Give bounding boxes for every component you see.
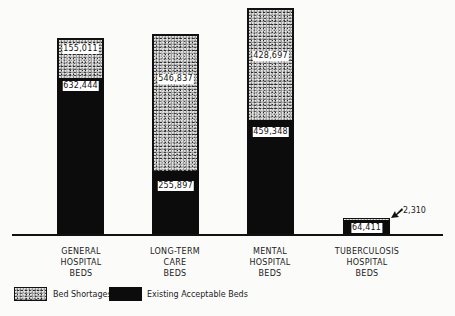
category-line: GENERAL (36, 246, 126, 257)
category-label-general: GENERAL HOSPITAL BEDS (36, 246, 126, 279)
category-line: MENTAL (225, 246, 315, 257)
bar-segment-existing: 459,348 (247, 120, 294, 235)
category-line: BEDS (322, 268, 412, 279)
value-label-shortage: 428,697 (252, 51, 288, 61)
category-line: HOSPITAL (225, 257, 315, 268)
bar-segment-shortage: 155,011 (57, 38, 104, 78)
value-label-existing: 459,348 (252, 127, 288, 137)
value-label-existing: 255,897 (157, 181, 193, 191)
category-line: HOSPITAL (322, 257, 412, 268)
legend-swatch-existing (109, 287, 142, 301)
value-label-shortage: 155,011 (62, 44, 98, 54)
value-label-existing: 64,411 (351, 223, 382, 233)
value-label-existing: 632,444 (62, 81, 98, 91)
category-line: BEDS (130, 268, 220, 279)
bar-segment-shortage: 546,837 (152, 34, 199, 171)
category-line: HOSPITAL (36, 257, 126, 268)
category-label-long-term: LONG-TERM CARE BEDS (130, 246, 220, 279)
category-line: LONG-TERM (130, 246, 220, 257)
value-label-tb-shortage: 2,310 (403, 206, 426, 215)
bar-tuberculosis-hospital: 64,411 (343, 218, 390, 235)
category-label-mental: MENTAL HOSPITAL BEDS (225, 246, 315, 279)
value-label-shortage: 546,837 (157, 74, 193, 84)
legend-label-shortages: Bed Shortages (53, 290, 112, 299)
category-line: TUBERCULOSIS (322, 246, 412, 257)
bar-segment-existing: 255,897 (152, 171, 199, 235)
bar-segment-existing: 632,444 (57, 78, 104, 235)
bar-long-term-care: 546,837 255,897 (152, 34, 199, 235)
category-line: BEDS (36, 268, 126, 279)
bar-mental-hospital: 428,697 459,348 (247, 8, 294, 235)
bar-general-hospital: 155,011 632,444 (57, 38, 104, 235)
category-line: CARE (130, 257, 220, 268)
category-label-tuberculosis: TUBERCULOSIS HOSPITAL BEDS (322, 246, 412, 279)
legend-swatch-shortages (14, 287, 47, 301)
bar-segment-existing: 64,411 (343, 220, 390, 235)
callout-arrow-icon (391, 207, 403, 219)
bar-segment-shortage: 428,697 (247, 8, 294, 120)
category-line: BEDS (225, 268, 315, 279)
legend-label-existing: Existing Acceptable Beds (147, 290, 248, 299)
x-axis-baseline (12, 234, 443, 236)
